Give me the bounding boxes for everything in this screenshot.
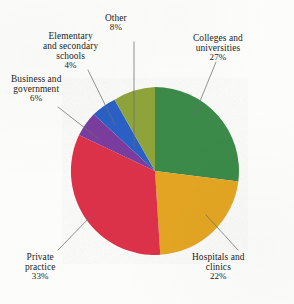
- pie-slice-hospitals[interactable]: [155, 171, 238, 255]
- slice-percent-business: 6%: [11, 94, 61, 104]
- slice-percent-private: 33%: [25, 272, 55, 282]
- slice-label-other: Other 8%: [105, 13, 127, 33]
- chart-page: Colleges and universities 27% Hospitals …: [0, 0, 294, 304]
- leader-line-private: [58, 215, 92, 250]
- pie-wedges-group: [71, 87, 239, 255]
- slice-percent-colleges: 27%: [193, 53, 243, 63]
- slice-label-colleges: Colleges and universities 27%: [193, 33, 243, 63]
- slice-label-colleges-line1: Colleges and: [193, 33, 243, 43]
- slice-label-hospitals-line1: Hospitals and: [192, 252, 245, 262]
- slice-label-business: Business and government 6%: [11, 74, 61, 104]
- slice-label-elementary-line2: and secondary: [43, 41, 98, 51]
- pie-slice-colleges[interactable]: [155, 87, 239, 182]
- slice-label-business-line1: Business and: [11, 74, 61, 84]
- slice-label-hospitals: Hospitals and clinics 22%: [192, 252, 245, 282]
- slice-percent-elementary: 4%: [43, 61, 98, 71]
- slice-label-elementary-line1: Elementary: [43, 31, 98, 41]
- slice-percent-hospitals: 22%: [192, 272, 245, 282]
- slice-label-private-line1: Private: [25, 252, 55, 262]
- slice-label-elementary: Elementary and secondary schools 4%: [43, 31, 98, 71]
- slice-percent-other: 8%: [105, 23, 127, 33]
- slice-label-private: Private practice 33%: [25, 252, 55, 282]
